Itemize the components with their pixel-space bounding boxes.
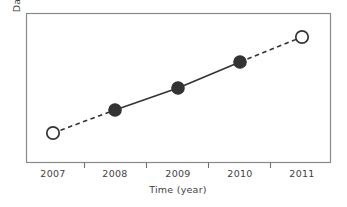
- x-tick-label-2011: 2011: [279, 168, 325, 179]
- x-tick-label-2009: 2009: [155, 168, 201, 179]
- data-point-2008: [109, 104, 121, 116]
- data-point-2011: [296, 31, 308, 43]
- chart-figure: Data quality measure 2007 2008 2009 2010…: [0, 0, 347, 207]
- x-tick-label-2007: 2007: [30, 168, 76, 179]
- data-point-2010: [234, 56, 246, 68]
- x-tick-label-2010: 2010: [217, 168, 263, 179]
- data-point-2009: [172, 82, 184, 94]
- x-axis-title: Time (year): [26, 184, 330, 195]
- x-tick-label-2008: 2008: [92, 168, 138, 179]
- data-point-2007: [47, 127, 59, 139]
